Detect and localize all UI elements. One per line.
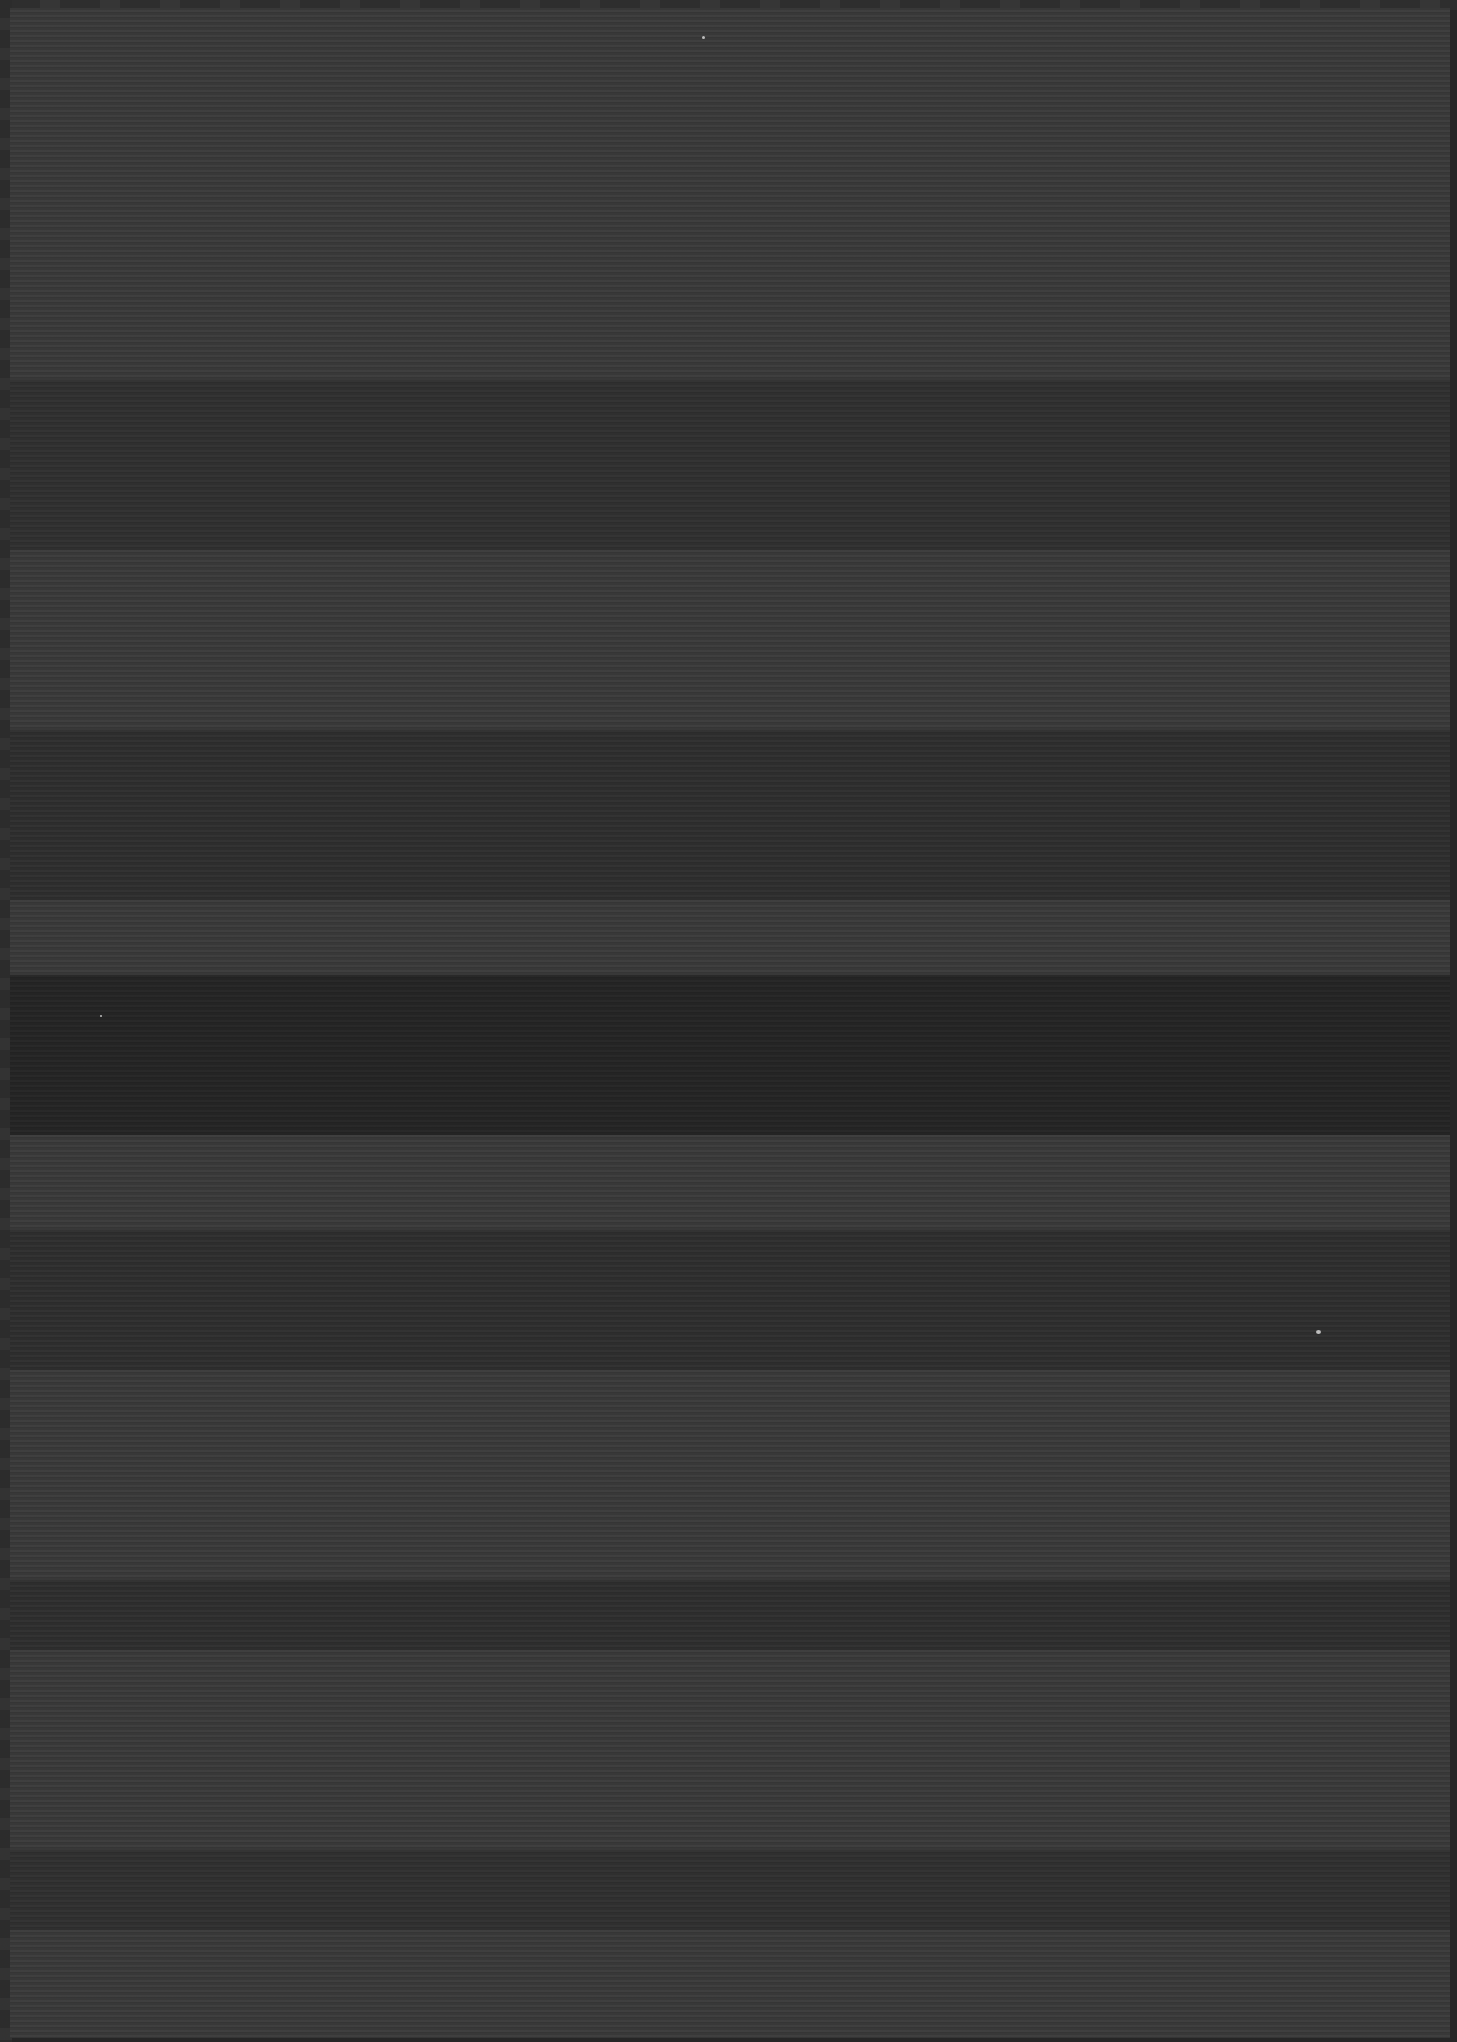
speck [1316, 1330, 1321, 1334]
dark-band-1 [10, 380, 1450, 550]
scan-background [0, 0, 1457, 2042]
dark-band-6 [10, 1850, 1450, 1930]
speck [100, 1015, 102, 1017]
paper-texture [10, 8, 1450, 2038]
speck [702, 36, 705, 39]
dark-band-5 [10, 1580, 1450, 1650]
dark-band-4 [10, 1230, 1450, 1370]
dark-band-2 [10, 730, 1450, 900]
dark-band-3 [10, 975, 1450, 1135]
